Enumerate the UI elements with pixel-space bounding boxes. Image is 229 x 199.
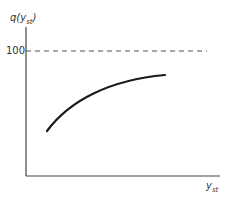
x-axis-label: yst [206,180,218,194]
y-axis-label: q(yst) [10,12,36,26]
y-axis-label-main: q(y [10,12,26,23]
y-axis-label-close: ) [33,12,37,23]
q-curve [47,75,165,131]
x-axis-label-sub: st [212,186,218,194]
chart-canvas [0,0,229,199]
y-tick-100: 100 [6,45,25,56]
